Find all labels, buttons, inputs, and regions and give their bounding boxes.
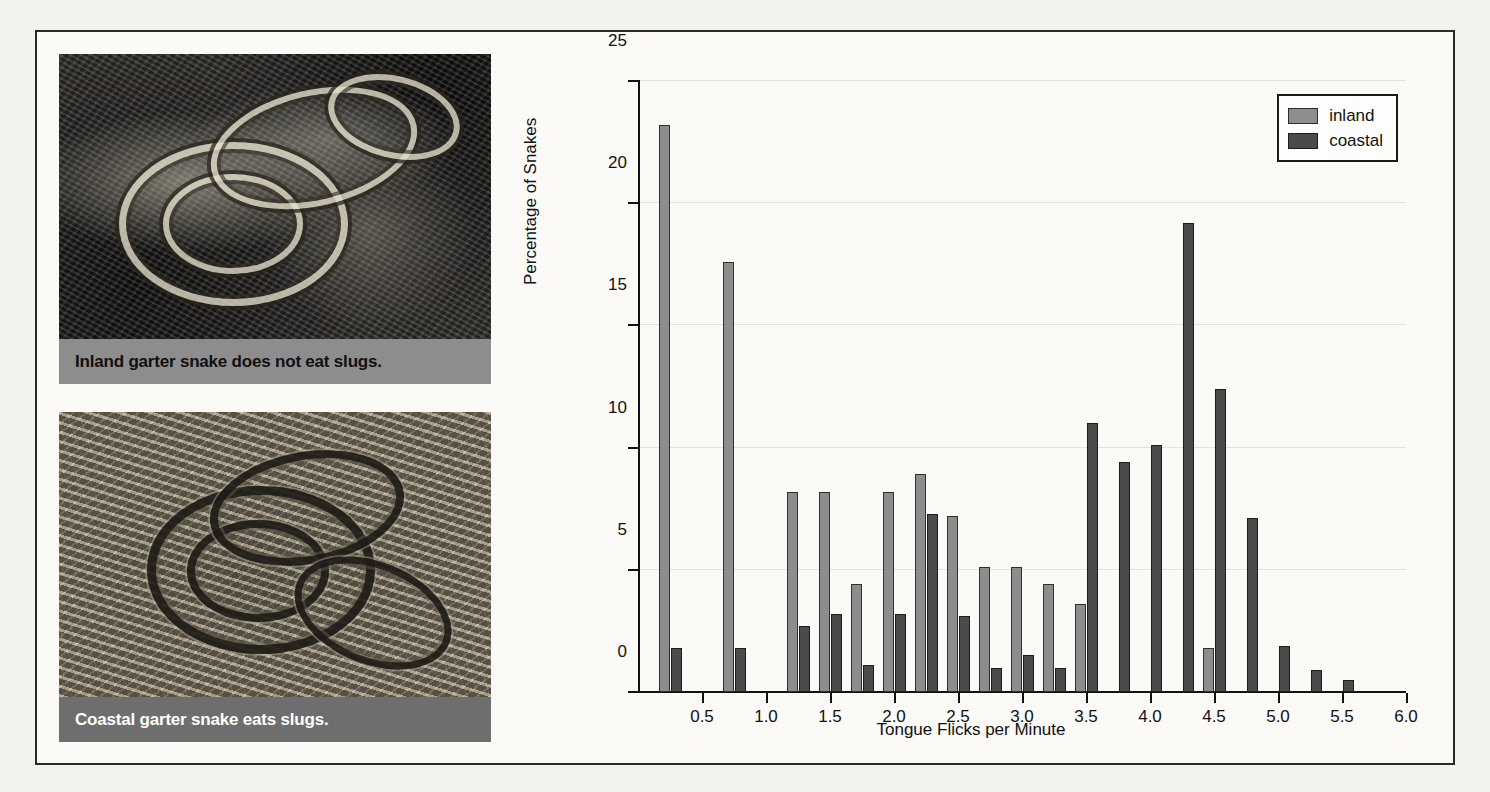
y-axis-tick	[628, 324, 638, 326]
x-axis-tick-label: 3.0	[1010, 707, 1034, 727]
x-axis-tick	[1086, 693, 1088, 703]
bar-coastal	[1247, 518, 1258, 692]
x-axis-tick	[702, 693, 704, 703]
bar-coastal	[1215, 389, 1226, 692]
x-axis-tick-label: 2.0	[882, 707, 906, 727]
chart-legend: inland coastal	[1277, 94, 1398, 162]
x-axis-title: Tongue Flicks per Minute	[507, 720, 1435, 740]
bar-inland	[851, 584, 862, 692]
x-axis-tick-label: 5.5	[1330, 707, 1354, 727]
gridline	[638, 447, 1406, 448]
x-axis-tick	[958, 693, 960, 703]
legend-entry-coastal: coastal	[1288, 128, 1383, 153]
bar-inland	[979, 567, 990, 692]
gridline	[638, 202, 1406, 203]
y-axis-tick	[628, 80, 638, 82]
legend-swatch-coastal	[1288, 133, 1318, 149]
bar-coastal	[1343, 680, 1354, 692]
x-axis-tick-label: 6.0	[1394, 707, 1418, 727]
bar-inland	[1075, 604, 1086, 692]
x-axis-tick	[766, 693, 768, 703]
y-axis-tick-label: 5	[618, 520, 627, 540]
legend-label-inland: inland	[1329, 106, 1374, 126]
figure-frame: Inland garter snake does not eat slugs. …	[35, 30, 1455, 765]
y-axis-tick	[628, 691, 638, 693]
coastal-snake-photo	[59, 412, 491, 697]
y-axis-tick-label: 25	[608, 31, 627, 51]
inland-photo-caption: Inland garter snake does not eat slugs.	[59, 339, 491, 384]
bar-coastal	[1055, 668, 1066, 692]
x-axis-tick-label: 1.0	[754, 707, 778, 727]
x-axis-tick-label: 0.5	[690, 707, 714, 727]
bar-coastal	[799, 626, 810, 692]
y-axis-tick-label: 15	[608, 275, 627, 295]
photo-column: Inland garter snake does not eat slugs. …	[59, 54, 491, 742]
y-axis-line	[638, 80, 640, 693]
y-axis-tick-label: 0	[618, 642, 627, 662]
bar-coastal	[927, 514, 938, 692]
x-axis-tick	[1342, 693, 1344, 703]
gridline	[638, 80, 1406, 81]
inland-snake-photo	[59, 54, 491, 339]
coastal-photo-caption: Coastal garter snake eats slugs.	[59, 697, 491, 742]
bar-inland	[787, 492, 798, 692]
gridline	[638, 569, 1406, 570]
bar-coastal	[895, 614, 906, 692]
bar-inland	[819, 492, 830, 692]
x-axis-tick-label: 3.5	[1074, 707, 1098, 727]
bar-coastal	[1279, 646, 1290, 692]
photo-card-coastal: Coastal garter snake eats slugs.	[59, 412, 491, 742]
y-axis-tick-label: 10	[608, 398, 627, 418]
bar-inland	[883, 492, 894, 692]
y-axis-title: Percentage of Snakes	[521, 118, 541, 285]
bar-coastal	[863, 665, 874, 692]
histogram-chart: Percentage of Snakes Tongue Flicks per M…	[507, 42, 1435, 757]
legend-swatch-inland	[1288, 108, 1318, 124]
bar-coastal	[735, 648, 746, 692]
bar-inland	[1011, 567, 1022, 692]
bar-inland	[659, 125, 670, 692]
gridline	[638, 324, 1406, 325]
bar-coastal	[671, 648, 682, 692]
bar-inland	[915, 474, 926, 692]
bar-coastal	[1183, 223, 1194, 692]
x-axis-tick	[1150, 693, 1152, 703]
x-axis-tick	[1022, 693, 1024, 703]
bar-inland	[1043, 584, 1054, 692]
x-axis-tick-label: 4.5	[1202, 707, 1226, 727]
bar-coastal	[1119, 462, 1130, 692]
y-axis-tick-labels: 0510152025	[579, 42, 627, 655]
bar-coastal	[1087, 423, 1098, 692]
x-axis-tick	[894, 693, 896, 703]
x-axis-tick	[1214, 693, 1216, 703]
bar-coastal	[959, 616, 970, 692]
y-axis-tick	[628, 202, 638, 204]
x-axis-tick	[1278, 693, 1280, 703]
y-axis-tick-label: 20	[608, 153, 627, 173]
bar-coastal	[1311, 670, 1322, 692]
y-axis-tick	[628, 569, 638, 571]
legend-entry-inland: inland	[1288, 103, 1383, 128]
bar-inland	[723, 262, 734, 692]
photo-card-inland: Inland garter snake does not eat slugs.	[59, 54, 491, 384]
y-axis-tick	[628, 447, 638, 449]
bar-coastal	[991, 668, 1002, 692]
x-axis-tick-label: 1.5	[818, 707, 842, 727]
bar-inland	[1203, 648, 1214, 692]
x-axis-tick-label: 2.5	[946, 707, 970, 727]
bar-coastal	[1151, 445, 1162, 692]
x-axis-tick	[830, 693, 832, 703]
plot-region: 0.51.01.52.02.53.03.54.04.55.05.56.0 inl…	[638, 80, 1406, 692]
x-axis-tick-label: 4.0	[1138, 707, 1162, 727]
x-axis-tick-label: 5.0	[1266, 707, 1290, 727]
bar-coastal	[1023, 655, 1034, 692]
bar-coastal	[831, 614, 842, 692]
x-axis-tick	[1406, 693, 1408, 703]
legend-label-coastal: coastal	[1329, 131, 1383, 151]
bar-inland	[947, 516, 958, 692]
